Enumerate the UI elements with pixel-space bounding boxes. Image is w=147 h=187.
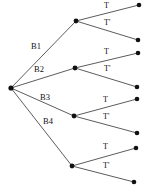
tree-graphics — [0, 0, 147, 187]
branch-label-b4: B4 — [43, 117, 53, 126]
node-b2 — [73, 66, 78, 71]
branch-label-b2: B2 — [34, 65, 44, 74]
node-b1 — [74, 19, 79, 24]
leaf-node-b4-t — [134, 146, 139, 151]
outcome-label-b2-tprime: T' — [104, 65, 111, 73]
outcome-label-b1-t: T — [104, 2, 109, 10]
outcome-label-b3-tprime: T' — [103, 113, 110, 121]
leaf-node-b1-t — [137, 3, 142, 8]
leaf-node-b3-tprime — [135, 131, 140, 136]
leaf-node-b4-tprime — [132, 180, 137, 185]
branch-label-b1: B1 — [31, 42, 41, 51]
tree-nodes — [8, 3, 141, 185]
outcome-label-b3-t: T — [103, 96, 108, 104]
branch-label-b3: B3 — [40, 93, 50, 102]
root-node — [8, 85, 13, 90]
stage2-edges — [72, 5, 139, 182]
node-b3 — [72, 114, 77, 119]
outcome-label-b4-tprime: T' — [103, 162, 110, 170]
node-b4 — [70, 164, 75, 169]
leaf-node-b3-t — [135, 97, 140, 102]
outcome-label-b2-t: T — [104, 48, 109, 56]
outcome-label-b4-t: T — [103, 143, 108, 151]
leaf-node-b2-t — [136, 51, 141, 56]
leaf-node-b1-tprime — [136, 38, 141, 43]
outcome-label-b1-tprime: T' — [104, 19, 111, 27]
probability-tree-diagram: B1 B2 B3 B4 T T' T T' T T' T T' — [0, 0, 147, 187]
leaf-node-b2-tprime — [135, 85, 140, 90]
